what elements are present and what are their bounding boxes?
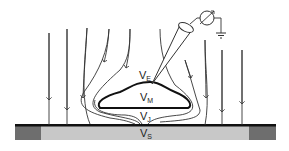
label-ve: VE xyxy=(139,69,151,82)
ground-icon xyxy=(216,33,226,38)
label-vj: VJ xyxy=(140,110,151,123)
cell-electrophysiology-diagram: VE VM VJ VS xyxy=(0,0,289,151)
